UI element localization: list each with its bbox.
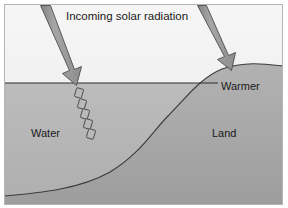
diagram-canvas: Incoming solar radiation Warmer Water La… — [0, 0, 288, 208]
diagram-svg: Incoming solar radiation Warmer Water La… — [0, 0, 288, 208]
water-label: Water — [31, 127, 60, 139]
incoming-solar-radiation-label: Incoming solar radiation — [66, 10, 188, 22]
warmer-label: Warmer — [221, 80, 260, 92]
land-label: Land — [212, 127, 236, 139]
